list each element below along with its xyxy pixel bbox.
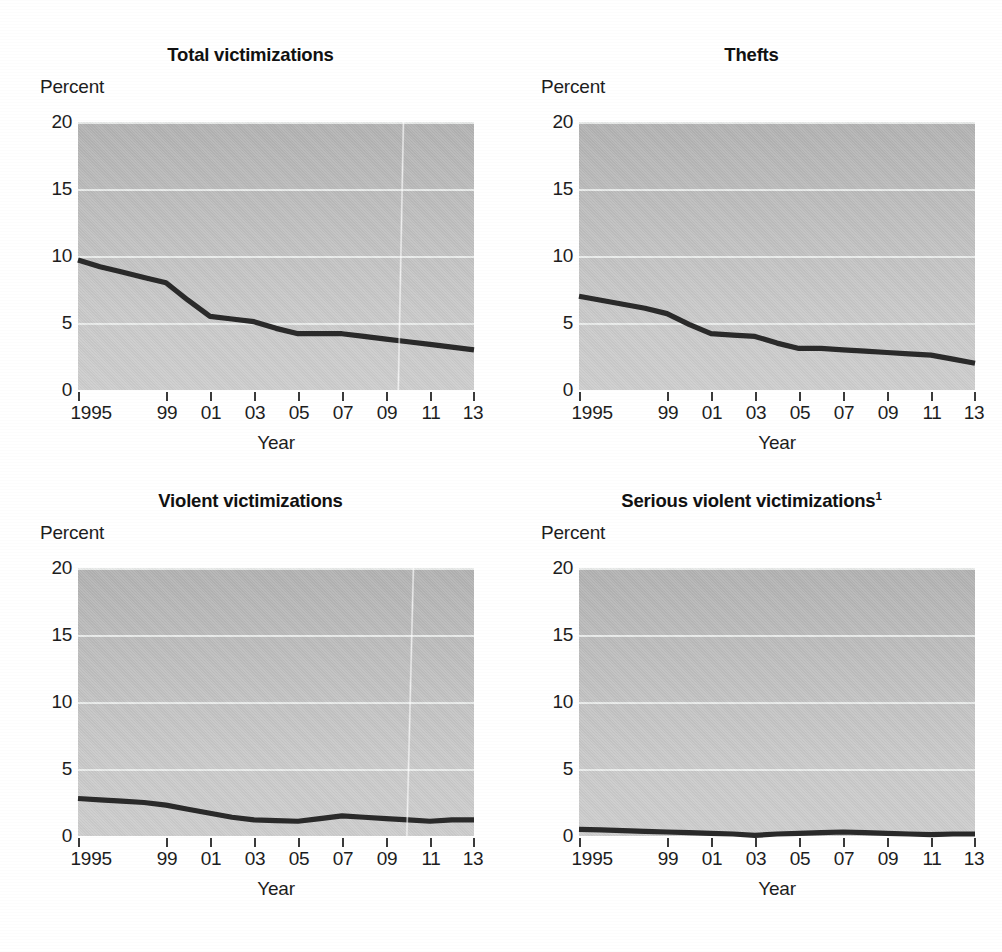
x-tick-2001	[210, 392, 212, 401]
y-tick-label-20: 20	[26, 557, 72, 579]
plot-area	[579, 122, 975, 390]
y-axis-labels: 20 15 10 5 0	[22, 568, 72, 836]
x-tick-2013	[473, 838, 475, 847]
y-tick-label-5: 5	[26, 312, 72, 334]
chart-title-text: Serious violent victimizations	[621, 490, 875, 511]
x-tick-2005	[799, 838, 801, 847]
x-tick-label-11: 11	[922, 848, 941, 870]
x-tick-2011	[931, 392, 933, 401]
y-tick-label-10: 10	[527, 245, 573, 267]
y-tick-label-10: 10	[26, 245, 72, 267]
series-line-svg	[579, 122, 975, 390]
chart-title: Thefts	[501, 44, 1002, 66]
x-tick-2003	[755, 838, 757, 847]
series-line-svg	[78, 568, 474, 836]
y-axis-unit-label: Percent	[40, 522, 104, 544]
chart-title: Violent victimizations	[0, 490, 501, 512]
x-tick-label-13: 13	[964, 402, 985, 424]
x-tick-label-01: 01	[702, 402, 723, 424]
x-tick-2007	[843, 392, 845, 401]
chart-title: Serious violent victimizations1	[501, 490, 1002, 512]
chart-title-footnote-marker: 1	[875, 490, 881, 502]
y-tick-label-15: 15	[26, 178, 72, 200]
series-line-svg	[579, 568, 975, 836]
x-tick-label-99: 99	[658, 848, 679, 870]
x-tick-label-99: 99	[157, 402, 178, 424]
chart-title: Total victimizations	[0, 44, 501, 66]
x-tick-label-03: 03	[245, 402, 266, 424]
x-tick-1999	[166, 392, 168, 401]
y-tick-label-5: 5	[527, 758, 573, 780]
x-tick-2009	[887, 838, 889, 847]
chart-panel-violent-victimizations: Violent victimizations Percent 20 15 10 …	[0, 446, 501, 922]
x-tick-label-13: 13	[463, 402, 484, 424]
x-tick-2007	[342, 392, 344, 401]
chart-title-text: Total victimizations	[167, 44, 333, 65]
x-tick-label-11: 11	[922, 402, 941, 424]
x-tick-label-05: 05	[289, 848, 310, 870]
x-axis-title: Year	[579, 878, 975, 900]
x-tick-label-07: 07	[333, 848, 354, 870]
x-axis-title: Year	[78, 878, 474, 900]
x-tick-2003	[755, 392, 757, 401]
x-tick-label-09: 09	[878, 402, 899, 424]
y-tick-label-0: 0	[527, 379, 573, 401]
x-tick-2005	[298, 392, 300, 401]
y-tick-label-5: 5	[527, 312, 573, 334]
x-tick-1995	[78, 838, 80, 847]
x-tick-label-1995: 1995	[71, 402, 112, 424]
x-tick-1995	[78, 392, 80, 401]
x-tick-label-09: 09	[878, 848, 899, 870]
x-tick-label-11: 11	[421, 848, 440, 870]
chart-title-text: Thefts	[724, 44, 778, 65]
x-tick-1999	[667, 838, 669, 847]
series-polyline-thefts	[579, 296, 975, 363]
y-tick-label-20: 20	[527, 111, 573, 133]
y-tick-label-15: 15	[26, 624, 72, 646]
y-tick-label-15: 15	[527, 178, 573, 200]
x-tick-label-07: 07	[834, 848, 855, 870]
x-tick-2001	[711, 392, 713, 401]
x-tick-label-03: 03	[245, 848, 266, 870]
x-tick-2001	[210, 838, 212, 847]
y-axis-labels: 20 15 10 5 0	[523, 568, 573, 836]
x-tick-label-99: 99	[658, 402, 679, 424]
chart-panel-serious-violent-victimizations: Serious violent victimizations1 Percent …	[501, 446, 1002, 922]
x-tick-2001	[711, 838, 713, 847]
x-tick-1999	[166, 838, 168, 847]
series-polyline-violent-victimizations	[78, 798, 474, 821]
plot-area	[78, 568, 474, 836]
x-tick-2007	[843, 838, 845, 847]
x-tick-2013	[974, 838, 976, 847]
x-tick-label-1995: 1995	[71, 848, 112, 870]
chart-panel-thefts: Thefts Percent 20 15 10 5 0 1995 99 01 0…	[501, 0, 1002, 476]
x-tick-label-01: 01	[702, 848, 723, 870]
y-axis-unit-label: Percent	[541, 76, 605, 98]
x-tick-label-01: 01	[201, 848, 222, 870]
x-tick-label-11: 11	[421, 402, 440, 424]
x-tick-1999	[667, 392, 669, 401]
x-tick-label-03: 03	[746, 402, 767, 424]
x-tick-label-09: 09	[377, 402, 398, 424]
y-tick-label-0: 0	[26, 825, 72, 847]
chart-title-text: Violent victimizations	[158, 490, 342, 511]
x-tick-label-07: 07	[834, 402, 855, 424]
y-tick-label-0: 0	[26, 379, 72, 401]
plot-area	[78, 122, 474, 390]
y-tick-label-10: 10	[527, 691, 573, 713]
x-tick-label-03: 03	[746, 848, 767, 870]
y-axis-unit-label: Percent	[40, 76, 104, 98]
x-tick-label-05: 05	[790, 402, 811, 424]
series-polyline-serious-violent-victimizations	[579, 829, 975, 835]
x-tick-2011	[430, 838, 432, 847]
x-tick-1995	[579, 838, 581, 847]
x-tick-2005	[298, 838, 300, 847]
x-tick-2013	[473, 392, 475, 401]
x-tick-label-13: 13	[463, 848, 484, 870]
series-polyline-total-victimizations	[78, 260, 474, 350]
y-axis-labels: 20 15 10 5 0	[22, 122, 72, 390]
y-tick-label-20: 20	[527, 557, 573, 579]
x-tick-label-01: 01	[201, 402, 222, 424]
x-tick-2009	[386, 392, 388, 401]
chart-panel-total-victimizations: Total victimizations Percent 20 15 10 5 …	[0, 0, 501, 476]
